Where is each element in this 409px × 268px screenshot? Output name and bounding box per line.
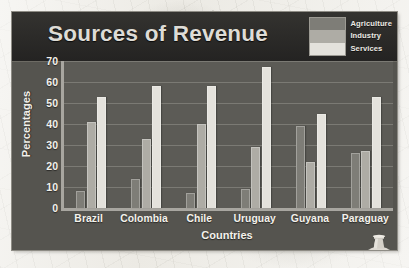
y-tick-label: 0: [52, 202, 58, 214]
legend-label-services: Services: [350, 43, 392, 55]
bar-uruguay-industry: [251, 147, 260, 208]
y-tick-label: 50: [46, 97, 58, 109]
bar-group: [228, 61, 283, 208]
bar-paraguay-services: [372, 97, 381, 208]
plot-area-wrapper: Percentages 706050403020100 BrazilColomb…: [12, 61, 397, 250]
bar-group: [64, 61, 119, 208]
bar-brazil-industry: [87, 122, 96, 208]
legend-swatch-agriculture: [310, 18, 345, 30]
legend-labels: AgricultureIndustryServices: [350, 17, 392, 56]
legend-swatches: [309, 17, 346, 56]
chart-title: Sources of Revenue: [12, 21, 304, 47]
bar-guyana-industry: [306, 162, 315, 208]
bar-guyana-agriculture: [296, 126, 305, 208]
bar-group: [174, 61, 229, 208]
y-axis-ticks: 706050403020100: [36, 61, 58, 211]
x-axis-label: Countries: [61, 229, 393, 241]
x-tick-label-uruguay: Uruguay: [227, 213, 282, 228]
bar-colombia-services: [152, 86, 161, 208]
legend-label-agriculture: Agriculture: [350, 18, 392, 30]
legend-swatch-services: [310, 43, 345, 55]
bar-group: [283, 61, 338, 208]
y-tick-label: 20: [46, 160, 58, 172]
bar-brazil-services: [97, 97, 106, 208]
y-tick-label: 30: [46, 139, 58, 151]
bar-paraguay-industry: [361, 151, 370, 208]
chart-card: Sources of Revenue AgricultureIndustrySe…: [12, 12, 397, 250]
x-tick-label-paraguay: Paraguay: [338, 213, 393, 228]
legend-label-industry: Industry: [350, 30, 392, 42]
bar-chile-industry: [197, 124, 206, 208]
stone-column-icon: [367, 231, 391, 250]
plot-area: [61, 61, 393, 211]
x-axis-ticks: BrazilColombiaChileUruguayGuyanaParaguay: [61, 213, 393, 228]
x-tick-label-chile: Chile: [172, 213, 227, 228]
bar-brazil-agriculture: [76, 191, 85, 208]
x-tick-label-guyana: Guyana: [282, 213, 337, 228]
bar-uruguay-services: [262, 67, 271, 208]
bar-groups: [64, 61, 393, 208]
bar-paraguay-agriculture: [351, 153, 360, 208]
y-tick-label: 40: [46, 118, 58, 130]
x-tick-label-brazil: Brazil: [61, 213, 116, 228]
bar-chile-agriculture: [186, 193, 195, 208]
bar-group: [338, 61, 393, 208]
bar-group: [119, 61, 174, 208]
bar-colombia-agriculture: [131, 179, 140, 208]
bar-colombia-industry: [142, 139, 151, 208]
bar-uruguay-agriculture: [241, 189, 250, 208]
chart-header-band: Sources of Revenue AgricultureIndustrySe…: [12, 12, 397, 62]
bar-guyana-services: [317, 114, 326, 209]
y-tick-label: 70: [46, 55, 58, 67]
y-tick-label: 60: [46, 76, 58, 88]
legend-swatch-industry: [310, 30, 345, 42]
bar-chile-services: [207, 86, 216, 208]
y-tick-label: 10: [46, 181, 58, 193]
chart-legend: AgricultureIndustryServices: [309, 17, 392, 56]
y-axis-label: Percentages: [20, 76, 32, 172]
x-tick-label-colombia: Colombia: [116, 213, 171, 228]
